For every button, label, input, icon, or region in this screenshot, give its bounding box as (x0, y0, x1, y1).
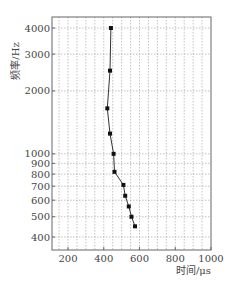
data-point-marker (108, 132, 112, 136)
data-point-marker (121, 183, 125, 187)
x-tick-label: 400 (94, 253, 113, 264)
y-axis-ticks: 4005006007008009001000200030004000 (25, 23, 55, 243)
x-tick-label: 600 (130, 253, 149, 264)
y-tick-label: 1000 (25, 148, 50, 159)
data-point-marker (129, 215, 133, 219)
data-line (107, 28, 135, 226)
data-point-marker (112, 152, 116, 156)
y-tick-label: 700 (31, 181, 50, 192)
y-tick-label: 4000 (25, 23, 50, 34)
data-point-marker (109, 26, 113, 30)
x-tick-label: 200 (58, 253, 77, 264)
x-tick-label: 800 (166, 253, 185, 264)
y-tick-label: 900 (31, 158, 50, 169)
y-tick-label: 3000 (25, 49, 50, 60)
x-tick-label: 1000 (198, 253, 223, 264)
y-tick-label: 800 (31, 169, 50, 180)
y-tick-label: 400 (31, 232, 50, 243)
x-axis-title: 时间/μs (176, 264, 211, 276)
y-tick-label: 500 (31, 211, 50, 222)
data-point-marker (105, 106, 109, 110)
frequency-time-chart: 2004006008001000 40050060070080090010002… (0, 0, 229, 288)
y-tick-label: 600 (31, 195, 50, 206)
y-axis-title: 频率/Hz (9, 42, 21, 79)
y-tick-label: 2000 (25, 85, 50, 96)
data-point-marker (112, 170, 116, 174)
data-point-marker (123, 194, 127, 198)
data-point-marker (108, 69, 112, 73)
data-point-marker (133, 224, 137, 228)
data-point-marker (127, 204, 131, 208)
